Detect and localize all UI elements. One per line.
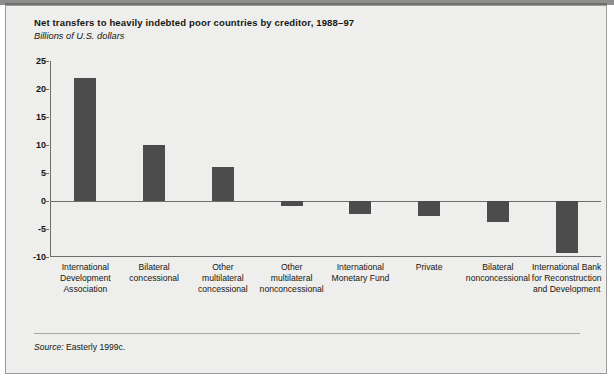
y-tick-mark: [46, 173, 49, 174]
y-tick-label: -10: [16, 252, 46, 262]
bar: [418, 201, 440, 216]
y-tick-label: 5: [16, 168, 46, 178]
bar: [556, 201, 578, 253]
source-divider: [34, 333, 580, 334]
x-category-label-line: for Reconstruction: [525, 273, 608, 284]
bar: [349, 201, 371, 214]
source-note: Source: Easterly 1999c.: [34, 342, 125, 352]
x-category-label-line: International Bank: [525, 262, 608, 273]
x-category-label-line: nonconcessional: [250, 284, 333, 295]
y-tick-mark: [46, 117, 49, 118]
y-tick-mark: [46, 145, 49, 146]
y-tick-label: 0: [16, 196, 46, 206]
figure-panel: Net transfers to heavily indebted poor c…: [5, 5, 607, 374]
y-tick-mark: [46, 201, 49, 202]
x-category-label: International Bankfor Reconstructionand …: [525, 262, 608, 296]
y-tick-mark: [46, 229, 49, 230]
y-tick-label: 25: [16, 56, 46, 66]
plot-area: 2520151050-5-10: [50, 61, 601, 257]
chart-title: Net transfers to heavily indebted poor c…: [34, 17, 354, 28]
y-axis-tick-labels: 2520151050-5-10: [12, 61, 46, 257]
x-category-label-line: Association: [44, 284, 127, 295]
y-tick-mark: [46, 89, 49, 90]
bar: [74, 78, 96, 201]
x-category-label-line: and Development: [525, 284, 608, 295]
x-category-label-line: Monetary Fund: [319, 273, 402, 284]
chart-subtitle: Billions of U.S. dollars: [34, 31, 124, 41]
y-tick-label: 20: [16, 84, 46, 94]
bar: [281, 201, 303, 206]
bar: [143, 145, 165, 201]
y-tick-label: 15: [16, 112, 46, 122]
y-tick-label: 10: [16, 140, 46, 150]
bar-series: [51, 61, 601, 257]
source-label: Source:: [34, 342, 64, 352]
y-tick-mark: [46, 257, 49, 258]
y-tick-label: -5: [16, 224, 46, 234]
y-tick-mark: [46, 61, 49, 62]
bar: [487, 201, 509, 222]
bar: [212, 167, 234, 201]
x-axis-category-labels: InternationalDevelopmentAssociationBilat…: [51, 262, 601, 322]
source-text: Easterly 1999c.: [64, 342, 126, 352]
